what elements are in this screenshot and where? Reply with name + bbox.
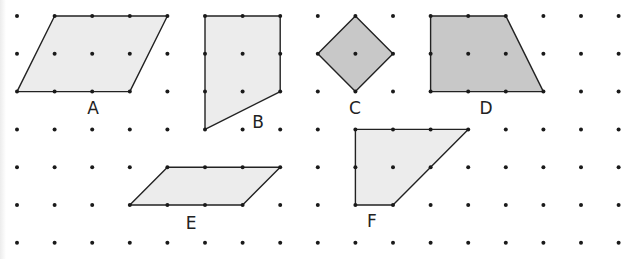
grid-dot [316, 90, 320, 94]
grid-dot [429, 241, 433, 245]
grid-dot [391, 52, 395, 56]
grid-dot [316, 14, 320, 18]
grid-dot [579, 90, 583, 94]
grid-dot [429, 14, 433, 18]
grid-dot [391, 241, 395, 245]
grid-dot [278, 52, 282, 56]
grid-dot [165, 241, 169, 245]
grid-dot [391, 165, 395, 169]
grid-dot [53, 241, 57, 245]
grid-dot [316, 52, 320, 56]
grid-dot [504, 241, 508, 245]
grid-dot [278, 203, 282, 207]
grid-dot [391, 127, 395, 131]
grid-dot [579, 52, 583, 56]
grid-dot [203, 165, 207, 169]
grid-dot [617, 127, 621, 131]
grid-dot [466, 52, 470, 56]
grid-dot [353, 203, 357, 207]
grid-dot [128, 165, 132, 169]
grid-dot [353, 127, 357, 131]
grid-dot [128, 127, 132, 131]
grid-dot [90, 203, 94, 207]
grid-dot [203, 52, 207, 56]
grid-dot [316, 203, 320, 207]
grid-dot [541, 90, 545, 94]
grid-dot [165, 90, 169, 94]
grid-dot [53, 127, 57, 131]
grid-dot [391, 203, 395, 207]
grid-dot [278, 241, 282, 245]
shape-label-a: A [87, 98, 99, 118]
grid-dot [466, 241, 470, 245]
shape-f [355, 129, 468, 205]
grid-dot [579, 241, 583, 245]
grid-dot [15, 52, 19, 56]
grid-dot [15, 14, 19, 18]
grid-dot [541, 203, 545, 207]
grid-dot [429, 165, 433, 169]
grid-dot [466, 165, 470, 169]
grid-dot [617, 90, 621, 94]
grid-dot [128, 203, 132, 207]
grid-dot [579, 14, 583, 18]
grid-dot [241, 52, 245, 56]
grid-dot [90, 90, 94, 94]
grid-dot [241, 241, 245, 245]
shape-label-f: F [367, 211, 377, 231]
grid-dot [617, 14, 621, 18]
grid-dot [203, 14, 207, 18]
grid-dot [90, 14, 94, 18]
grid-dot [15, 241, 19, 245]
grid-dot [541, 165, 545, 169]
grid-dot [504, 203, 508, 207]
grid-dot [466, 14, 470, 18]
grid-dot [391, 14, 395, 18]
grid-dot [391, 90, 395, 94]
grid-dot [466, 90, 470, 94]
shape-e [130, 167, 280, 205]
shape-b [205, 16, 280, 129]
grid-dot [165, 203, 169, 207]
grid-dot [53, 165, 57, 169]
grid-dot [617, 241, 621, 245]
grid-dot [579, 165, 583, 169]
grid-dot [504, 165, 508, 169]
grid-dot [241, 127, 245, 131]
grid-dot [203, 203, 207, 207]
grid-dot [504, 14, 508, 18]
grid-dot [353, 90, 357, 94]
shape-label-e: E [186, 213, 197, 233]
grid-dot [316, 127, 320, 131]
grid-dot [90, 165, 94, 169]
grid-dot [617, 203, 621, 207]
shape-label-b: B [252, 112, 264, 132]
grid-dot [165, 127, 169, 131]
grid-dot [278, 127, 282, 131]
grid-dot [53, 90, 57, 94]
grid-dot [15, 203, 19, 207]
shape-label-d: D [479, 98, 492, 118]
grid-dot [128, 90, 132, 94]
grid-dot [203, 241, 207, 245]
grid-dot [353, 52, 357, 56]
grid-dot [15, 127, 19, 131]
grid-dot [353, 241, 357, 245]
grid-dot [203, 90, 207, 94]
grid-dot [617, 52, 621, 56]
grid-dot [541, 127, 545, 131]
dot-grid-diagram: ABCDEF [0, 0, 644, 259]
grid-dot [15, 165, 19, 169]
grid-dot [128, 241, 132, 245]
grid-dot [128, 14, 132, 18]
grid-dot [241, 165, 245, 169]
grid-dot [128, 52, 132, 56]
grid-dot [53, 203, 57, 207]
grid-dot [165, 52, 169, 56]
grid-dot [316, 165, 320, 169]
grid-dot [579, 203, 583, 207]
grid-dot [165, 14, 169, 18]
grid-dot [541, 52, 545, 56]
grid-dot [429, 127, 433, 131]
grid-dot [353, 165, 357, 169]
